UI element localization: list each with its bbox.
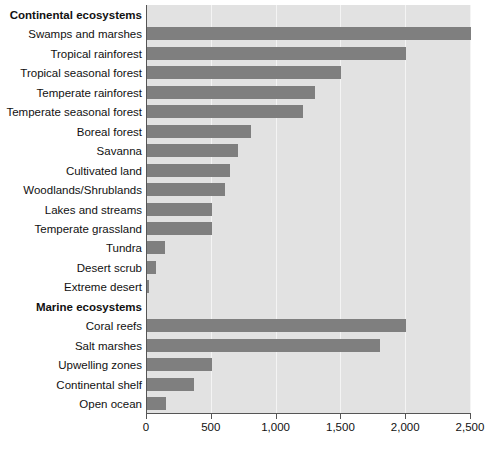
bar bbox=[147, 47, 406, 60]
bar bbox=[147, 164, 230, 177]
bar bbox=[147, 66, 341, 79]
bar bbox=[147, 222, 212, 235]
group-header-label: Marine ecosystems bbox=[36, 300, 142, 314]
bar-row: Cultivated land bbox=[0, 162, 486, 182]
bar bbox=[147, 280, 149, 293]
bar-row: Desert scrub bbox=[0, 259, 486, 279]
x-tick-label: 1,000 bbox=[261, 421, 290, 433]
category-label: Salt marshes bbox=[75, 339, 142, 353]
category-label: Tundra bbox=[106, 241, 142, 255]
category-label: Tropical seasonal forest bbox=[20, 66, 142, 80]
bar bbox=[147, 27, 471, 40]
category-label: Temperate grassland bbox=[35, 222, 142, 236]
x-tick-mark bbox=[470, 414, 471, 419]
bar-row: Temperate grassland bbox=[0, 220, 486, 240]
x-tick-label: 2,500 bbox=[456, 421, 485, 433]
bar-row: Extreme desert bbox=[0, 278, 486, 298]
x-tick-mark bbox=[146, 414, 147, 419]
bar-row: Tundra bbox=[0, 239, 486, 259]
bar-row: Boreal forest bbox=[0, 123, 486, 143]
category-label: Extreme desert bbox=[64, 280, 142, 294]
category-label: Temperate seasonal forest bbox=[6, 105, 142, 119]
bar bbox=[147, 358, 212, 371]
bar-row: Tropical seasonal forest bbox=[0, 64, 486, 84]
group-header-row: Continental ecosystems bbox=[0, 6, 486, 26]
bar bbox=[147, 241, 165, 254]
category-label: Lakes and streams bbox=[45, 203, 142, 217]
category-label: Open ocean bbox=[79, 397, 142, 411]
bar bbox=[147, 319, 406, 332]
bar bbox=[147, 261, 156, 274]
category-label: Temperate rainforest bbox=[37, 86, 142, 100]
x-tick-label: 1,500 bbox=[326, 421, 355, 433]
bar bbox=[147, 144, 238, 157]
x-tick-mark bbox=[405, 414, 406, 419]
bar bbox=[147, 339, 380, 352]
bar-chart: Continental ecosystemsSwamps and marshes… bbox=[0, 0, 486, 449]
x-tick-label: 2,000 bbox=[391, 421, 420, 433]
bar-row: Lakes and streams bbox=[0, 201, 486, 221]
bar-row: Tropical rainforest bbox=[0, 45, 486, 65]
bar bbox=[147, 105, 303, 118]
bar bbox=[147, 203, 212, 216]
group-header-row: Marine ecosystems bbox=[0, 298, 486, 318]
category-label: Cultivated land bbox=[66, 164, 142, 178]
category-label: Coral reefs bbox=[86, 319, 142, 333]
category-label: Woodlands/Shrublands bbox=[23, 183, 142, 197]
bar-row: Savanna bbox=[0, 142, 486, 162]
bar-row: Coral reefs bbox=[0, 317, 486, 337]
category-label: Savanna bbox=[97, 144, 142, 158]
bar bbox=[147, 378, 194, 391]
bar-row: Upwelling zones bbox=[0, 356, 486, 376]
category-label: Boreal forest bbox=[77, 125, 142, 139]
bar bbox=[147, 86, 315, 99]
category-label: Continental shelf bbox=[56, 378, 142, 392]
x-tick-label: 500 bbox=[201, 421, 220, 433]
bar-row: Swamps and marshes bbox=[0, 25, 486, 45]
bar bbox=[147, 125, 251, 138]
bar bbox=[147, 397, 166, 410]
category-label: Tropical rainforest bbox=[50, 47, 142, 61]
bar bbox=[147, 183, 225, 196]
x-tick-label: 0 bbox=[143, 421, 149, 433]
x-tick-mark bbox=[276, 414, 277, 419]
x-tick-mark bbox=[340, 414, 341, 419]
bar-row: Temperate seasonal forest bbox=[0, 103, 486, 123]
bar-row: Open ocean bbox=[0, 395, 486, 415]
category-label: Desert scrub bbox=[77, 261, 142, 275]
bar-row: Salt marshes bbox=[0, 337, 486, 357]
bar-row: Temperate rainforest bbox=[0, 84, 486, 104]
bar-row: Continental shelf bbox=[0, 376, 486, 396]
x-tick-mark bbox=[211, 414, 212, 419]
group-header-label: Continental ecosystems bbox=[10, 8, 142, 22]
category-label: Upwelling zones bbox=[58, 358, 142, 372]
category-label: Swamps and marshes bbox=[28, 27, 142, 41]
bar-row: Woodlands/Shrublands bbox=[0, 181, 486, 201]
